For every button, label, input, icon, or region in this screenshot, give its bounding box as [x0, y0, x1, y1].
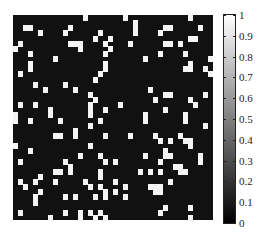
colorbar-tick-label: 0.1: [239, 197, 253, 208]
colorbar-tick: [233, 181, 235, 182]
heatmap-cell: [18, 71, 23, 77]
heatmap-cell: [28, 66, 33, 72]
heatmap-cell: [38, 189, 43, 195]
heatmap-cell: [88, 184, 93, 190]
heatmap-cell: [103, 133, 108, 139]
heatmap-cell: [148, 169, 153, 175]
heatmap-cell: [58, 118, 63, 124]
heatmap-cell: [88, 123, 93, 129]
heatmap-cell: [33, 102, 38, 108]
heatmap-cell: [88, 112, 93, 118]
colorbar-tick-label: 0: [239, 218, 245, 229]
heatmap-cell: [18, 41, 23, 47]
colorbar-tick-label: 0.2: [239, 176, 253, 187]
heatmap-cell: [33, 82, 38, 88]
heatmap-cell: [68, 169, 73, 175]
colorbar-tick: [233, 140, 235, 141]
colorbar-tick-label: 0.5: [239, 114, 253, 125]
heatmap-cell: [33, 200, 38, 206]
heatmap-cell: [158, 159, 163, 165]
heatmap-cell: [168, 25, 173, 31]
heatmap-cell: [208, 71, 213, 77]
heatmap-cell: [73, 133, 78, 139]
heatmap-cell: [113, 179, 118, 185]
heatmap-cell: [88, 143, 93, 149]
colorbar-tick: [233, 202, 235, 203]
heatmap-cell: [28, 148, 33, 154]
heatmap-matrix: [13, 15, 213, 220]
heatmap-cell: [63, 30, 68, 36]
heatmap-cell: [93, 77, 98, 83]
colorbar-tick: [233, 57, 235, 58]
heatmap-cell: [193, 102, 198, 108]
colorbar-tick-label: 0.8: [239, 52, 253, 63]
heatmap-cell: [38, 30, 43, 36]
colorbar-tick: [224, 15, 226, 16]
heatmap-cell: [168, 138, 173, 144]
heatmap-cell: [68, 25, 73, 31]
heatmap-cell: [198, 159, 203, 165]
heatmap-cell: [158, 138, 163, 144]
heatmap-cell: [58, 169, 63, 175]
heatmap-cell: [28, 51, 33, 57]
heatmap-cell: [183, 169, 188, 175]
heatmap-cell: [148, 87, 153, 93]
heatmap-cell: [38, 174, 43, 180]
colorbar-tick-label: 0.3: [239, 156, 253, 167]
heatmap-cell: [158, 30, 163, 36]
heatmap-cell: [28, 118, 33, 124]
heatmap-cell: [158, 189, 163, 195]
heatmap-cell: [53, 179, 58, 185]
colorbar-tick-label: 0.7: [239, 72, 253, 83]
heatmap-cell: [188, 66, 193, 72]
heatmap-cell: [103, 159, 108, 165]
heatmap-cell: [63, 82, 68, 88]
heatmap-cell: [13, 118, 18, 124]
heatmap-cell: [168, 153, 173, 159]
heatmap-cell: [103, 194, 108, 200]
heatmap-cell: [98, 71, 103, 77]
heatmap-cell: [73, 87, 78, 93]
colorbar-tick-label: 0.4: [239, 135, 253, 146]
heatmap-cell: [108, 46, 113, 52]
colorbar-tick: [224, 98, 226, 99]
heatmap-cell: [93, 97, 98, 103]
heatmap-cell: [113, 159, 118, 165]
heatmap-cell: [13, 143, 18, 149]
colorbar-tick: [224, 223, 226, 224]
heatmap-cell: [103, 66, 108, 72]
heatmap-cell: [153, 97, 158, 103]
heatmap-cell: [133, 30, 138, 36]
heatmap-cell: [93, 194, 98, 200]
heatmap-cell: [43, 87, 48, 93]
heatmap-cell: [33, 179, 38, 185]
heatmap-cell: [18, 210, 23, 216]
heatmap-cell: [128, 41, 133, 47]
colorbar-tick: [233, 15, 235, 16]
colorbar: [223, 14, 236, 224]
heatmap-cell: [143, 56, 148, 62]
heatmap-cell: [188, 143, 193, 149]
heatmap-cell: [188, 15, 193, 21]
heatmap-cell: [163, 107, 168, 113]
colorbar-tick: [224, 181, 226, 182]
heatmap-cell: [123, 194, 128, 200]
heatmap-cell: [48, 215, 53, 221]
heatmap-cell: [98, 174, 103, 180]
heatmap-cell: [163, 205, 168, 211]
colorbar-tick: [233, 161, 235, 162]
heatmap-cell: [208, 56, 213, 62]
heatmap-cell: [58, 133, 63, 139]
heatmap-cell: [53, 56, 58, 62]
heatmap-cell: [123, 15, 128, 21]
heatmap-cell: [13, 46, 18, 52]
heatmap-cell: [168, 41, 173, 47]
heatmap-cell: [128, 133, 133, 139]
colorbar-tick: [224, 202, 226, 203]
heatmap-cell: [143, 118, 148, 124]
heatmap-cell: [28, 25, 33, 31]
heatmap-cell: [188, 215, 193, 221]
heatmap-cell: [113, 189, 118, 195]
heatmap-cell: [98, 30, 103, 36]
heatmap-cell: [168, 92, 173, 98]
